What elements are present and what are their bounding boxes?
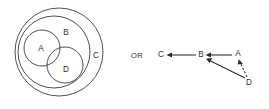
graph-node-a: A xyxy=(235,49,241,58)
set-circle-b xyxy=(18,16,90,88)
graph-node-d: D xyxy=(246,78,252,87)
edge-b-to-c xyxy=(167,53,197,58)
figure-canvas: C B A D OR xyxy=(0,0,269,109)
set-label-a: A xyxy=(38,44,44,53)
graph-node-b: B xyxy=(198,50,204,59)
edge-a-to-b xyxy=(206,53,233,58)
set-label-d: D xyxy=(63,65,69,74)
set-label-c: C xyxy=(93,51,99,60)
figure-root: C B A D OR xyxy=(0,0,269,109)
arrow-head-to-b-from-d xyxy=(206,58,212,63)
arrow-head-to-b-from-a xyxy=(206,53,212,58)
arrow-head-to-a-from-d xyxy=(238,59,243,64)
arrow-head-to-c xyxy=(167,53,173,58)
venn-diagram-group: C B A D xyxy=(15,8,103,96)
dependency-graph-group: C B A D xyxy=(158,49,252,87)
or-connector-label: OR xyxy=(131,51,143,60)
set-label-b: B xyxy=(63,28,69,37)
edge-d-to-a xyxy=(238,59,247,77)
graph-node-c: C xyxy=(158,50,164,59)
